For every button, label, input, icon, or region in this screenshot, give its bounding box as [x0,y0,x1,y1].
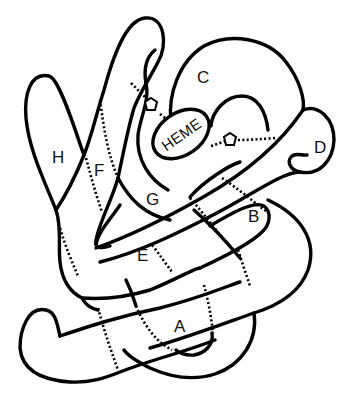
label-c: C [197,68,209,87]
label-d: D [314,138,326,157]
label-h: H [52,148,64,167]
label-b: B [248,207,259,226]
label-e: E [137,246,148,265]
label-f: F [94,161,104,180]
proximal-histidine-icon [145,98,157,110]
myoglobin-diagram: HEME H F C D G B E A [0,0,353,412]
helix-h [26,76,84,298]
label-a: A [174,317,186,336]
label-g: G [146,190,159,209]
distal-histidine-icon [211,133,276,146]
